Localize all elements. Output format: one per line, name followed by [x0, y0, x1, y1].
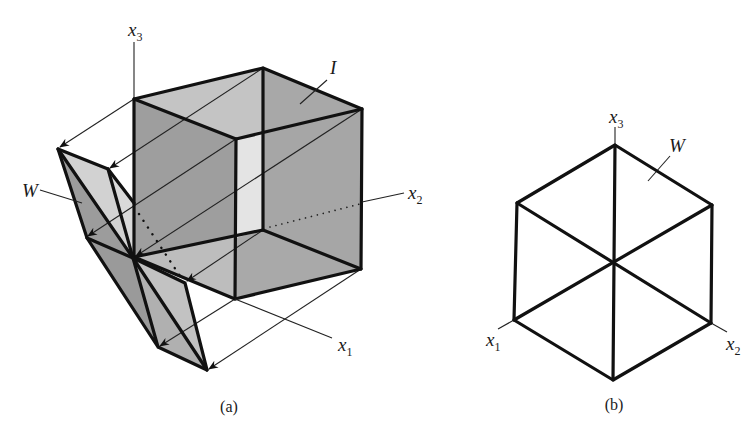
projection-arrow-1 — [60, 99, 134, 147]
x2-label-b: x2 — [725, 333, 740, 358]
figure-a-cube-projection: x3 I W x2 x1 (a) — [22, 19, 422, 416]
w-label-a: W — [22, 180, 40, 201]
x1-axis-stub-b — [498, 320, 514, 329]
figure-b-hexagon: x3 W x1 x2 (b) — [485, 106, 740, 414]
x2-axis-line — [362, 193, 404, 202]
cube-edge-front-vertical — [235, 139, 236, 299]
x3-label-b: x3 — [608, 106, 623, 131]
x3-label-a: x3 — [127, 19, 142, 44]
x1-label-b: x1 — [485, 329, 500, 354]
figure-canvas: x3 I W x2 x1 (a) x3 W x1 x2 (b) — [0, 0, 754, 436]
x2-label-a: x2 — [407, 182, 422, 207]
x1-label-a: x1 — [337, 334, 352, 359]
i-label: I — [329, 57, 338, 78]
x2-axis-stub-b — [711, 323, 727, 332]
caption-b: (b) — [605, 396, 624, 414]
cube-light-slot — [236, 130, 263, 238]
caption-a: (a) — [220, 398, 238, 416]
x1-axis-line — [235, 299, 332, 338]
w-label-b: W — [669, 135, 687, 156]
